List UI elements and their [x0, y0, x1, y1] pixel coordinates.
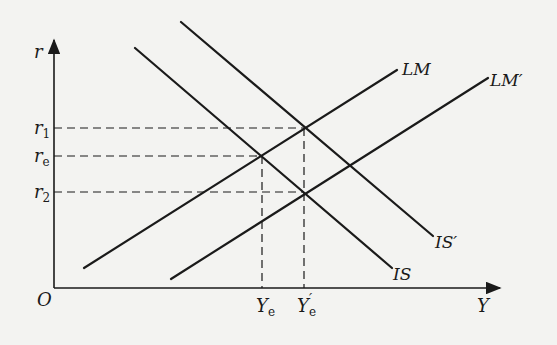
lm-label: LM — [401, 59, 431, 79]
lm-prime-label: LM′ — [489, 70, 523, 90]
re-label: re — [34, 145, 50, 169]
is-lm-diagram: r Y O r1 re r2 Ye Ye′ LM LM′ IS IS′ — [0, 0, 557, 345]
Ye-prime-label: Ye′ — [297, 291, 316, 319]
Ye-label: Ye — [256, 295, 275, 319]
is-curve — [135, 48, 392, 268]
x-axis-label: Y — [477, 295, 491, 316]
origin-label: O — [37, 289, 52, 310]
is-prime-label: IS′ — [434, 232, 457, 252]
is-prime-curve — [181, 22, 433, 236]
diagram-canvas: r Y O r1 re r2 Ye Ye′ LM LM′ IS IS′ — [0, 0, 557, 345]
is-label: IS — [392, 264, 411, 284]
lm-curve — [84, 70, 397, 268]
y-axis-label: r — [34, 41, 44, 62]
r2-label: r2 — [34, 181, 50, 205]
r1-label: r1 — [34, 117, 50, 141]
